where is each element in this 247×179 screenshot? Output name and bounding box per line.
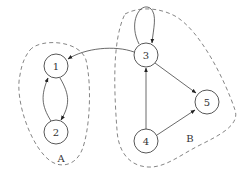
edge-2-to-1 xyxy=(43,78,51,121)
edge-4-to-5 xyxy=(157,110,195,135)
graph-diagram: 1 2 3 4 5 A B xyxy=(0,0,247,179)
node-3: 3 xyxy=(134,43,158,67)
edge-3-to-3 xyxy=(135,7,155,44)
node-3-label: 3 xyxy=(143,50,149,61)
node-5: 5 xyxy=(195,90,219,114)
node-2-label: 2 xyxy=(53,127,59,138)
node-2: 2 xyxy=(44,120,68,144)
node-4: 4 xyxy=(134,129,158,153)
group-b-boundary xyxy=(115,9,236,167)
group-b-label: B xyxy=(186,133,193,144)
edge-1-to-2 xyxy=(60,78,68,120)
node-5-label: 5 xyxy=(204,97,210,108)
group-a-label: A xyxy=(56,153,65,164)
edge-3-to-5 xyxy=(155,63,196,93)
node-4-label: 4 xyxy=(143,136,149,147)
node-1-label: 1 xyxy=(53,61,59,72)
node-1: 1 xyxy=(44,54,68,78)
